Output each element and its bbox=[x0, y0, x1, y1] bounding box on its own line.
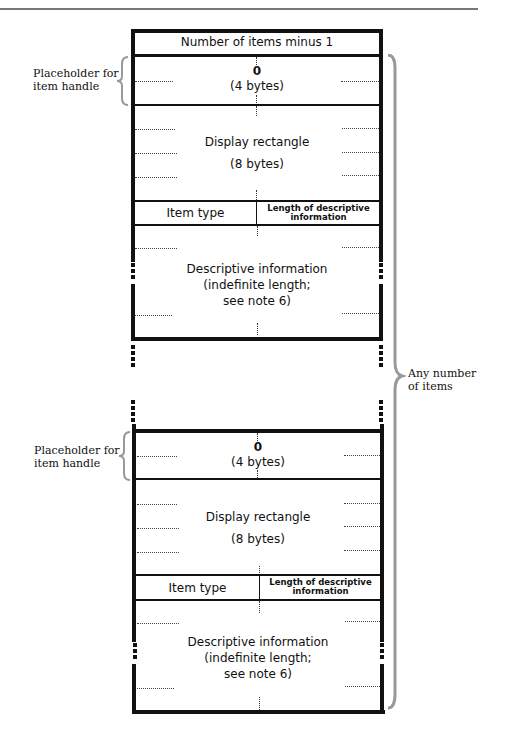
placeholder-annotation: Placeholder for item handle bbox=[34, 444, 120, 470]
desc-line-1: Descriptive information bbox=[136, 635, 380, 650]
left-brace-icon bbox=[116, 56, 130, 106]
center-tick bbox=[259, 697, 260, 710]
tick-mark bbox=[135, 248, 177, 249]
continuation-dots bbox=[379, 400, 383, 424]
placeholder-value: 0 bbox=[136, 440, 380, 455]
display-divider bbox=[131, 200, 383, 202]
desc-line-2: (indefinite length; bbox=[135, 278, 379, 293]
type-column-divider bbox=[259, 575, 260, 599]
top-rule bbox=[0, 8, 478, 10]
placeholder-divider bbox=[132, 478, 384, 480]
center-tick bbox=[256, 190, 257, 200]
item-end-border bbox=[131, 337, 383, 341]
tick-mark bbox=[342, 152, 379, 153]
tick-mark bbox=[135, 129, 175, 130]
header-row-label: Number of items minus 1 bbox=[135, 35, 379, 50]
tick-mark bbox=[342, 247, 379, 248]
item-type-label: Item type bbox=[136, 581, 259, 596]
header-divider bbox=[131, 54, 383, 57]
desc-line-2: (indefinite length; bbox=[136, 651, 380, 666]
tick-mark bbox=[135, 153, 177, 154]
tick-mark bbox=[344, 503, 380, 504]
display-rect-label: Display rectangle bbox=[136, 510, 380, 525]
placeholder-value: 0 bbox=[135, 64, 379, 79]
right-border bbox=[379, 30, 383, 340]
tick-mark bbox=[345, 686, 380, 687]
center-tick bbox=[257, 226, 258, 236]
tick-mark bbox=[137, 688, 174, 689]
tick-mark bbox=[342, 128, 379, 129]
center-tick bbox=[256, 106, 257, 116]
placeholder-size: (4 bytes) bbox=[136, 455, 380, 470]
tick-mark bbox=[137, 552, 179, 553]
top-border bbox=[131, 29, 383, 33]
tick-mark bbox=[342, 313, 379, 314]
tick-mark bbox=[137, 456, 177, 457]
center-tick bbox=[256, 57, 257, 67]
tick-mark bbox=[135, 177, 177, 178]
tick-mark bbox=[342, 175, 379, 176]
center-tick bbox=[257, 470, 258, 478]
left-brace-icon bbox=[118, 431, 132, 481]
center-tick bbox=[257, 323, 258, 335]
tick-mark bbox=[137, 528, 179, 529]
tick-mark bbox=[344, 526, 380, 527]
tick-mark bbox=[135, 81, 173, 82]
tick-mark bbox=[341, 81, 379, 82]
item-start-border bbox=[132, 429, 384, 433]
display-rect-label: Display rectangle bbox=[135, 135, 379, 150]
tick-mark bbox=[137, 504, 177, 505]
continuation-dots bbox=[133, 643, 137, 661]
continuation-dots bbox=[379, 345, 383, 369]
display-divider bbox=[132, 574, 384, 576]
continuation-dots bbox=[379, 263, 383, 281]
bottom-border bbox=[133, 710, 385, 714]
type-column-divider bbox=[256, 201, 257, 225]
item-type-label: Item type bbox=[135, 206, 256, 221]
placeholder-annotation: Placeholder for item handle bbox=[33, 67, 119, 93]
type-divider bbox=[132, 599, 384, 601]
display-rect-size: (8 bytes) bbox=[135, 157, 379, 172]
any-number-annotation: Any number of items bbox=[408, 367, 476, 393]
desc-line-3: see note 6) bbox=[135, 294, 379, 309]
tick-mark bbox=[345, 621, 380, 622]
length-label-2: information bbox=[261, 587, 380, 596]
display-rect-size: (8 bytes) bbox=[136, 532, 380, 547]
continuation-dots bbox=[131, 345, 135, 369]
right-brace-icon bbox=[386, 54, 406, 710]
desc-line-1: Descriptive information bbox=[135, 262, 379, 277]
desc-line-3: see note 6) bbox=[136, 667, 380, 682]
tick-mark bbox=[344, 550, 380, 551]
center-tick bbox=[259, 601, 260, 613]
continuation-dots bbox=[131, 263, 135, 281]
continuation-dots bbox=[380, 643, 384, 661]
continuation-dots bbox=[131, 400, 135, 424]
right-border bbox=[380, 424, 384, 714]
tick-mark bbox=[344, 455, 380, 456]
tick-mark bbox=[135, 315, 172, 316]
length-label-2: information bbox=[258, 213, 379, 222]
placeholder-divider bbox=[131, 104, 383, 106]
tick-mark bbox=[137, 623, 179, 624]
